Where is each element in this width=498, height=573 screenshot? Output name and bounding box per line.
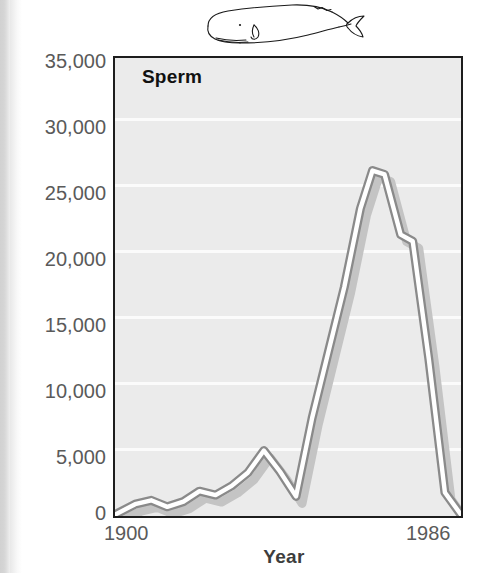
y-tick-15000: 15,000 (10, 314, 106, 337)
x-tick-start: 1900 (104, 522, 149, 545)
plot-inner: Sperm (115, 58, 461, 516)
plot-area: Sperm (113, 56, 463, 518)
x-tick-end: 1986 (406, 522, 451, 545)
y-tick-30000: 30,000 (10, 116, 106, 139)
data-series-sperm (115, 58, 461, 516)
y-tick-5000: 5,000 (10, 446, 106, 469)
y-axis-labels: 35,000 30,000 25,000 20,000 15,000 10,00… (6, 0, 106, 573)
y-tick-35000: 35,000 (10, 50, 106, 73)
sperm-whale-illustration (196, 0, 368, 50)
y-tick-0: 0 (10, 502, 106, 525)
y-tick-25000: 25,000 (10, 182, 106, 205)
y-tick-20000: 20,000 (10, 248, 106, 271)
x-axis-title-text: Year (263, 546, 304, 567)
x-axis-title: Year (0, 546, 498, 568)
y-tick-10000: 10,000 (10, 380, 106, 403)
series-title-sperm: Sperm (142, 66, 202, 88)
chart-page: 35,000 30,000 25,000 20,000 15,000 10,00… (0, 0, 498, 573)
